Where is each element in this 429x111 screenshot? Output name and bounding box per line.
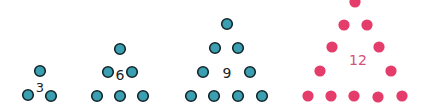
dot: [385, 65, 396, 76]
dot: [233, 43, 244, 54]
dot: [46, 91, 57, 102]
dot: [257, 91, 268, 102]
dot: [186, 91, 197, 102]
dot: [210, 43, 221, 54]
dot: [138, 91, 149, 102]
dot: [325, 90, 336, 101]
dot: [302, 90, 313, 101]
triangle-9: 9: [186, 19, 268, 102]
dot: [103, 67, 114, 78]
dot: [92, 91, 103, 102]
dot: [245, 67, 256, 78]
dot: [209, 91, 220, 102]
dot: [373, 41, 384, 52]
dot: [396, 90, 407, 101]
dot: [23, 90, 34, 101]
triangular-numbers-diagram: 36912: [0, 0, 429, 111]
triangle-3: 3: [23, 66, 57, 102]
triangle-count-label: 6: [116, 67, 125, 83]
dot: [314, 65, 325, 76]
dot: [198, 67, 209, 78]
triangle-count-label: 3: [36, 80, 44, 95]
dot: [115, 91, 126, 102]
dot: [115, 44, 126, 55]
dot: [222, 19, 233, 30]
triangle-6: 6: [92, 44, 149, 102]
triangle-12: 12: [302, 0, 407, 103]
dot: [127, 67, 138, 78]
dot: [35, 66, 46, 77]
dot: [372, 91, 383, 102]
dot: [348, 90, 359, 101]
dot: [326, 41, 337, 52]
triangle-count-label: 12: [349, 52, 367, 68]
dot: [361, 19, 372, 30]
dot: [349, 0, 360, 8]
triangle-count-label: 9: [223, 65, 232, 81]
dot: [233, 91, 244, 102]
dot: [338, 19, 349, 30]
